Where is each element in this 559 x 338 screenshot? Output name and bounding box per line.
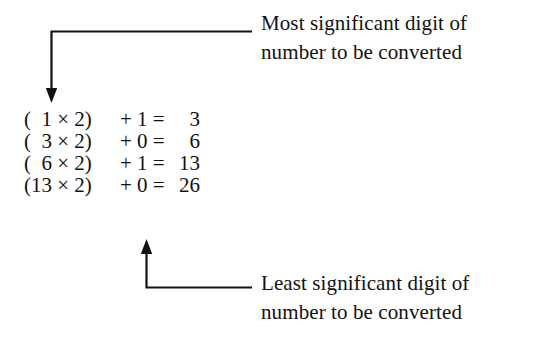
most-significant-digit-annotation: Most significant digit of number to be c… bbox=[261, 9, 467, 67]
equation-operator: + 0 = bbox=[120, 174, 168, 196]
equation-row: (13 × 2) + 0 = 26 bbox=[24, 174, 200, 196]
annotation-top-line-2: number to be converted bbox=[261, 38, 467, 67]
equation-operator: + 1 = bbox=[120, 152, 168, 174]
equation-result: 13 bbox=[168, 152, 200, 174]
figure-canvas: Most significant digit of number to be c… bbox=[0, 0, 559, 338]
annotation-bottom-line-2: number to be converted bbox=[261, 298, 469, 327]
equation-result: 6 bbox=[168, 130, 200, 152]
equation-result: 26 bbox=[168, 174, 200, 196]
equation-row: ( 6 × 2) + 1 = 13 bbox=[24, 152, 200, 174]
conversion-equation-list: ( 1 × 2) + 1 = 3 ( 3 × 2) + 0 = 6 ( 6 × … bbox=[24, 108, 200, 196]
equation-lhs: ( 6 × 2) bbox=[24, 152, 120, 174]
equation-lhs: ( 3 × 2) bbox=[24, 130, 120, 152]
annotation-top-line-1: Most significant digit of bbox=[261, 9, 467, 38]
equation-operator: + 0 = bbox=[120, 130, 168, 152]
equation-operator: + 1 = bbox=[120, 108, 168, 130]
least-significant-digit-annotation: Least significant digit of number to be … bbox=[261, 269, 469, 327]
equation-lhs: (13 × 2) bbox=[24, 174, 120, 196]
equation-row: ( 1 × 2) + 1 = 3 bbox=[24, 108, 200, 130]
equation-lhs: ( 1 × 2) bbox=[24, 108, 120, 130]
least-significant-digit-arrow-icon bbox=[141, 239, 252, 288]
most-significant-digit-arrow-icon bbox=[46, 32, 252, 104]
equation-row: ( 3 × 2) + 0 = 6 bbox=[24, 130, 200, 152]
annotation-bottom-line-1: Least significant digit of bbox=[261, 269, 469, 298]
equation-result: 3 bbox=[168, 108, 200, 130]
